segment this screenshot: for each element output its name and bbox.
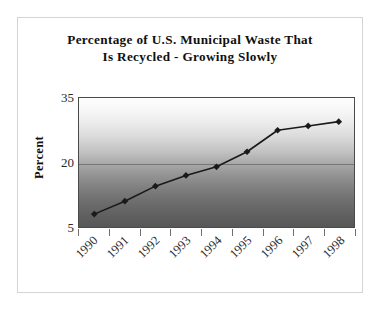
x-axis-tick-mark — [140, 229, 141, 236]
data-series-line — [79, 98, 354, 227]
x-axis-tick-mark — [355, 229, 356, 236]
data-point-marker — [305, 123, 312, 130]
y-axis-tick-label-35: 35 — [48, 90, 74, 106]
y-axis-title: Percent — [32, 113, 47, 203]
x-axis-tick-mark — [232, 229, 233, 236]
chart-title: Percentage of U.S. Municipal Waste That … — [30, 31, 350, 65]
data-point-marker — [213, 163, 220, 170]
chart-figure: Percentage of U.S. Municipal Waste That … — [0, 0, 380, 310]
y-axis-tick-label-5: 5 — [48, 220, 74, 236]
plot-area — [78, 97, 355, 228]
x-axis-tick-mark — [170, 229, 171, 236]
x-axis-tick-mark — [109, 229, 110, 236]
data-point-marker — [152, 183, 159, 190]
y-axis-tick-label-20: 20 — [48, 155, 74, 171]
data-point-marker — [335, 118, 342, 125]
x-axis-tick-mark — [263, 229, 264, 236]
x-axis-labels: 199019911992199319941995199619971998 — [78, 236, 355, 286]
x-axis-tick-mark — [324, 229, 325, 236]
x-axis-tick-mark — [293, 229, 294, 236]
data-point-marker — [91, 211, 98, 218]
x-axis-tick-mark — [78, 229, 79, 236]
data-point-marker — [121, 198, 128, 205]
data-point-marker — [183, 172, 190, 179]
x-axis-tick-mark — [201, 229, 202, 236]
